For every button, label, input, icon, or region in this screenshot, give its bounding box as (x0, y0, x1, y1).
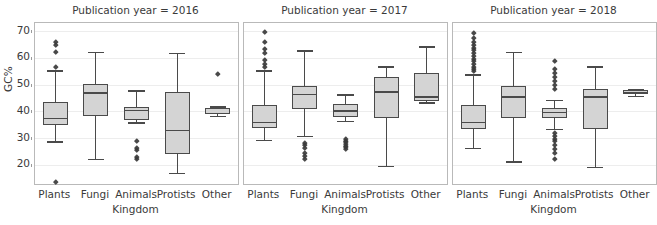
gridline (453, 31, 656, 32)
median-line (501, 96, 526, 98)
y-tick-mark (31, 164, 32, 167)
y-tick-mark (31, 110, 32, 113)
y-tick-mark (31, 137, 32, 140)
median-line (414, 96, 439, 98)
box-protists (165, 92, 190, 154)
median-line (542, 112, 567, 114)
plot-panel (452, 22, 657, 185)
box-fungi (501, 86, 526, 118)
median-line (43, 118, 68, 120)
x-tick-label-other: Other (196, 188, 237, 200)
whisker-cap (506, 52, 522, 53)
whisker-cap (465, 74, 481, 75)
median-line (292, 94, 317, 96)
box-animals (542, 108, 567, 119)
whisker-cap (169, 173, 185, 174)
whisker-cap (337, 121, 353, 122)
gridline (35, 31, 238, 32)
whisker-cap (546, 100, 562, 101)
whisker-cap (256, 140, 272, 141)
whisker-cap (210, 116, 226, 117)
x-tick-label-fungi: Fungi (75, 188, 116, 200)
outlier-marker (134, 157, 139, 162)
whisker-cap (378, 166, 394, 167)
whisker-cap (88, 52, 104, 53)
outlier-marker (53, 42, 58, 47)
gridline (244, 31, 447, 32)
box-plants (43, 102, 68, 125)
outlier-marker (343, 146, 348, 151)
whisker-cap (628, 96, 644, 97)
x-tick-label-animals: Animals (533, 188, 574, 200)
outlier-marker (552, 156, 557, 161)
outlier-marker (262, 50, 267, 55)
outlier-marker (53, 179, 58, 184)
y-tick-label: 30 (4, 131, 30, 143)
whisker-cap (587, 167, 603, 168)
x-tick-label-fungi: Fungi (284, 188, 325, 200)
x-tick-label-protists: Protists (574, 188, 615, 200)
median-line (461, 122, 486, 124)
gridline (35, 85, 238, 86)
x-axis-label: Kingdom (452, 203, 655, 215)
x-tick-label-plants: Plants (452, 188, 493, 200)
panel-title: Publication year = 2018 (452, 4, 655, 16)
whisker-cap (47, 141, 63, 142)
x-tick-label-other: Other (614, 188, 655, 200)
gridline (244, 165, 447, 166)
box-fungi (83, 84, 108, 116)
outlier-marker (302, 156, 307, 161)
gridline (244, 58, 447, 59)
whisker-cap (419, 102, 435, 103)
median-line (333, 110, 358, 112)
x-tick-label-other: Other (405, 188, 446, 200)
x-tick-label-fungi: Fungi (493, 188, 534, 200)
whisker-cap (297, 136, 313, 137)
y-tick-mark (31, 84, 32, 87)
box-fungi (292, 86, 317, 109)
plot-panel (34, 22, 239, 185)
y-tick-label: 50 (4, 77, 30, 89)
panel-title: Publication year = 2017 (243, 4, 446, 16)
gridline (35, 165, 238, 166)
whisker-cap (587, 66, 603, 67)
median-line (205, 113, 230, 115)
x-tick-label-protists: Protists (156, 188, 197, 200)
outlier-marker (53, 49, 58, 54)
box-plants (252, 105, 277, 128)
whisker-cap (297, 50, 313, 51)
median-line (583, 96, 608, 98)
whisker-cap (337, 94, 353, 95)
whisker-cap (169, 53, 185, 54)
whisker-cap (256, 70, 272, 71)
gridline (453, 165, 656, 166)
x-tick-label-protists: Protists (365, 188, 406, 200)
x-tick-label-plants: Plants (243, 188, 284, 200)
median-line (124, 110, 149, 112)
outlier-marker (134, 138, 139, 143)
outlier-marker (262, 29, 267, 34)
outlier-marker (53, 64, 58, 69)
median-line (83, 92, 108, 94)
x-tick-label-animals: Animals (324, 188, 365, 200)
whisker-cap (419, 46, 435, 47)
outlier-marker (262, 40, 267, 45)
y-tick-label: 20 (4, 157, 30, 169)
median-line (374, 91, 399, 93)
whisker-cap (465, 148, 481, 149)
box-plants (461, 105, 486, 129)
x-tick-label-animals: Animals (115, 188, 156, 200)
whisker-cap (88, 159, 104, 160)
median-line (623, 92, 648, 94)
box-protists (583, 89, 608, 129)
outlier-marker (552, 87, 557, 92)
x-axis-label: Kingdom (34, 203, 237, 215)
plot-panel (243, 22, 448, 185)
whisker-cap (47, 70, 63, 71)
y-tick-label: 60 (4, 50, 30, 62)
whisker-cap (128, 90, 144, 91)
outlier-marker (134, 147, 139, 152)
outlier-marker (471, 68, 476, 73)
y-tick-label: 70 (4, 24, 30, 36)
y-tick-mark (31, 57, 32, 60)
